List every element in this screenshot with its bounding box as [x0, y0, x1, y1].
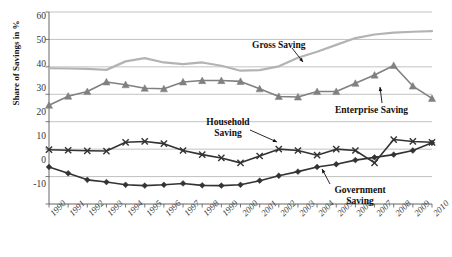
leader-enterprise-saving	[379, 87, 383, 103]
y-tick-0: 0	[18, 156, 46, 166]
annotation-household-saving-line1: Household	[197, 117, 259, 128]
y-tick-neg10: -10	[18, 180, 46, 190]
annotation-gross-saving: Gross Saving	[252, 40, 305, 51]
y-tick-10: 10	[18, 132, 46, 142]
series-household-saving	[46, 136, 435, 166]
y-tick-30: 30	[18, 84, 46, 94]
annotation-enterprise-saving-text: Enterprise Saving	[335, 105, 408, 115]
annotation-gross-saving-text: Gross Saving	[252, 40, 305, 50]
savings-share-chart: Share of Savings in % 60 50 40 30 20 10 …	[0, 0, 452, 257]
annotation-government-saving-line1: Government	[322, 185, 398, 196]
annotation-government-saving-line2: Saving	[322, 196, 398, 207]
y-tick-60: 60	[18, 12, 46, 22]
annotation-enterprise-saving: Enterprise Saving	[335, 105, 408, 116]
annotation-household-saving-line2: Saving	[197, 128, 259, 139]
y-tick-50: 50	[18, 36, 46, 46]
annotation-household-saving: Household Saving	[197, 117, 259, 139]
y-axis-ticks: 60 50 40 30 20 10 0 -10	[16, 0, 46, 257]
annotation-government-saving: Government Saving	[322, 185, 398, 207]
series-gross-saving	[49, 31, 432, 70]
y-tick-20: 20	[18, 108, 46, 118]
y-tick-40: 40	[18, 60, 46, 70]
